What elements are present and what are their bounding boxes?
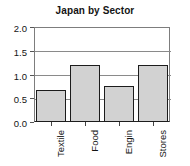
x-axis-tick-mark (51, 122, 52, 126)
bar (104, 86, 134, 122)
chart-title: Japan by Sector (0, 5, 190, 16)
y-axis-tick-label: 1.0 (14, 70, 27, 81)
x-axis-tick-mark (119, 122, 120, 126)
bar-series (34, 27, 170, 122)
y-axis: 0.00.51.01.52.0 (0, 27, 34, 123)
bar (138, 65, 168, 122)
y-axis-tick-label: 0.5 (14, 94, 27, 105)
x-axis-tick-mark (85, 122, 86, 126)
y-axis-tick-label: 2.0 (14, 23, 27, 34)
x-axis-tick-label: Engin (123, 130, 134, 154)
x-axis-tick-label: Stores (157, 130, 168, 157)
y-axis-tick-label: 0.0 (14, 118, 27, 129)
y-axis-tick-label: 1.5 (14, 46, 27, 57)
x-axis-tick-mark (153, 122, 154, 126)
x-axis-tick-label: Food (89, 130, 100, 152)
bar-chart: Japan by Sector 0.00.51.01.52.0 TextileF… (0, 0, 190, 166)
bar (36, 90, 66, 122)
y-axis-tick-mark (30, 122, 34, 123)
bar (70, 65, 100, 122)
x-axis-tick-label: Textile (55, 130, 66, 157)
